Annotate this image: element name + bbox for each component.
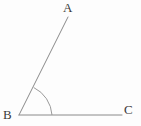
vertex-label-a: A xyxy=(63,1,72,14)
angle-arc xyxy=(34,88,52,116)
geometry-figure-canvas: A B C xyxy=(0,0,141,126)
vertex-label-b: B xyxy=(3,108,12,121)
angle-abc-drawing xyxy=(0,0,141,126)
vertex-label-c: C xyxy=(124,103,133,116)
ray-ba-line xyxy=(19,17,68,115)
